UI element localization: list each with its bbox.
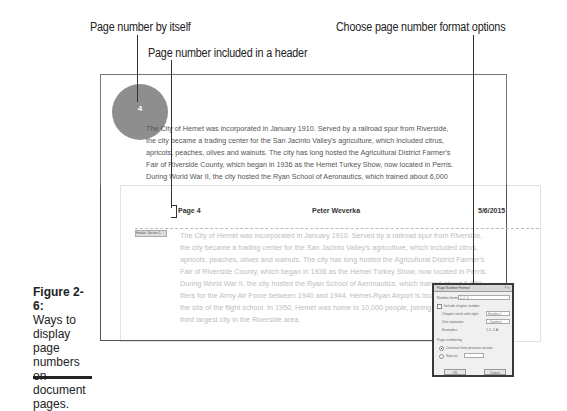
dialog-title-buttons[interactable]: ? ✕ xyxy=(504,285,510,291)
callout-page-number-in-header: Page number included in a header xyxy=(148,46,307,60)
figure-number: Figure 2-6: xyxy=(33,285,93,313)
page-numbering-label: Page numbering xyxy=(437,338,462,342)
examples-value: 1-1, 1-A xyxy=(486,327,498,333)
examples-row: Examples: 1-1, 1-A xyxy=(442,327,509,333)
separator-select[interactable]: - (hyphen) xyxy=(486,319,510,324)
page-number-circle-value: 4 xyxy=(112,104,168,113)
start-at-radio[interactable] xyxy=(439,354,444,359)
page-1-body-text: The City of Hemet was incorporated in Ja… xyxy=(146,123,496,183)
body-line: apricots, peaches, olives and walnuts. T… xyxy=(180,254,520,266)
continue-option[interactable]: Continue from previous section xyxy=(439,345,509,351)
body-line: apricots, peaches, olives and walnuts. T… xyxy=(146,147,496,159)
caption-rule xyxy=(33,376,92,379)
body-line: The City of Hemet was incorporated in Ja… xyxy=(146,123,496,135)
include-chapter-label: Include chapter number xyxy=(444,304,480,308)
include-chapter-row[interactable]: Include chapter number xyxy=(437,303,509,309)
body-line: the city became a trading center for the… xyxy=(146,135,496,147)
bracket-side xyxy=(176,205,177,218)
examples-label: Examples: xyxy=(442,328,458,332)
number-format-select[interactable]: 1, 2, 3, ... xyxy=(458,295,510,300)
page-numbering-heading: Page numbering xyxy=(437,337,509,343)
header-page-number: Page 4 xyxy=(178,207,201,214)
header-divider xyxy=(135,228,539,229)
cancel-button[interactable]: Cancel xyxy=(484,369,506,375)
body-line: Fair of Riverside County, which began in… xyxy=(180,266,520,278)
caption-text: Ways to display page numbers on document… xyxy=(33,313,93,411)
chapter-style-select[interactable]: Heading 1 xyxy=(486,311,510,316)
chapter-style-label: Chapter starts with style: xyxy=(442,312,479,316)
callout-page-number-by-itself: Page number by itself xyxy=(90,20,191,34)
callout-format-options: Choose page number format options xyxy=(336,20,505,34)
header-section-tab: Header -Section 1- xyxy=(135,230,167,237)
body-line: Fair of Riverside County, which began in… xyxy=(146,159,496,171)
page-number-format-dialog: Page Number Format ? ✕ Number format: 1,… xyxy=(432,283,514,377)
body-line: the city became a trading center for the… xyxy=(180,242,520,254)
dialog-title: Page Number Format xyxy=(437,286,470,290)
dialog-title-bar: Page Number Format ? ✕ xyxy=(434,285,512,292)
body-line: During World War II, the city hosted the… xyxy=(146,171,496,183)
include-chapter-checkbox[interactable] xyxy=(437,304,442,309)
leader-line-format xyxy=(473,35,474,285)
header-date: 5/6/2015 xyxy=(478,207,505,214)
figure-caption: Figure 2-6: Ways to display page numbers… xyxy=(33,285,93,411)
start-at-label: Start at: xyxy=(446,354,458,358)
body-line: The City of Hemet was incorporated in Ja… xyxy=(180,230,520,242)
leader-line-header xyxy=(171,60,172,208)
ok-button[interactable]: OK xyxy=(444,369,466,375)
separator-label: Use separator: xyxy=(442,320,464,324)
continue-label: Continue from previous section xyxy=(446,346,493,350)
start-at-spinner[interactable] xyxy=(464,353,484,358)
header-author: Peter Weverka xyxy=(312,207,360,214)
continue-radio[interactable] xyxy=(439,346,444,351)
leader-line-by-itself xyxy=(137,35,138,102)
